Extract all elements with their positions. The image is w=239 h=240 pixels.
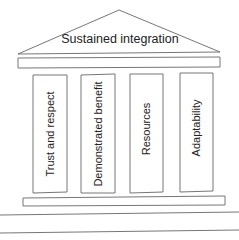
base-top-line (0, 212, 239, 215)
base-bottom-line (0, 230, 239, 233)
roof-label: Sustained integration (50, 32, 190, 46)
pillar-label-trust: Trust and respect (44, 91, 56, 176)
pillar-label-benefit: Demonstrated benefit (92, 81, 104, 186)
upper-beam (18, 57, 220, 68)
pillar-label-resources: Resources (140, 103, 152, 156)
pillar-label-adaptability: Adaptability (190, 100, 202, 157)
lower-beam (23, 196, 225, 206)
